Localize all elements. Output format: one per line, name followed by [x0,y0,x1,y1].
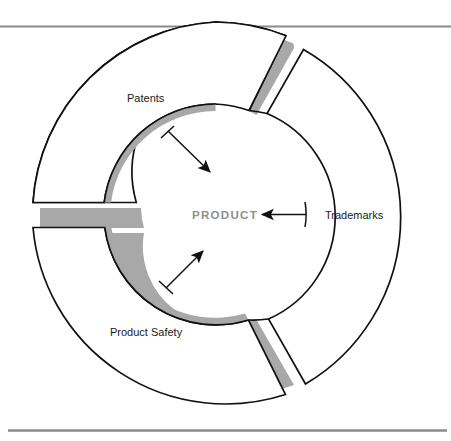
hub-arc-right-lower [249,319,269,320]
label-trademarks: Trademarks [325,209,384,221]
sector-product-safety[interactable] [33,228,286,404]
arrow-patents-inward [161,126,210,172]
product-protection-diagram: Patents Trademarks Product Safety PRODUC… [0,0,451,441]
label-patents: Patents [127,92,165,104]
label-product-safety: Product Safety [110,326,183,338]
label-product-center: PRODUCT [192,209,258,221]
diagram-root: Patents Trademarks Product Safety PRODUC… [0,0,451,441]
arrow-product-safety-inward [159,251,203,294]
arrow-trademarks-inward [262,202,306,227]
sector-patents-outline [33,22,286,203]
